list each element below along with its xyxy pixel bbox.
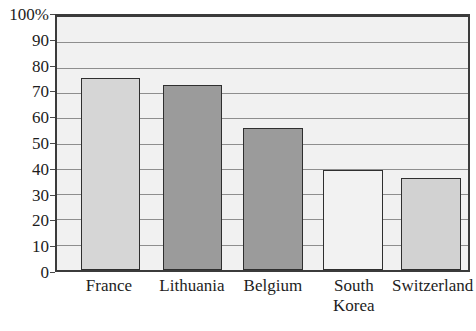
plot-area <box>55 14 470 272</box>
y-axis-tick-label: 10 <box>32 238 49 255</box>
cut-off-title <box>0 0 476 13</box>
x-axis-tick-label: South Korea <box>333 276 375 316</box>
bar-chart: 100%9080706050403020100 FranceLithuaniaB… <box>0 0 476 331</box>
bar <box>323 170 383 270</box>
y-axis: 100%9080706050403020100 <box>0 14 55 272</box>
y-axis-tick-label: 20 <box>32 212 49 229</box>
y-axis-tick-label: 70 <box>32 83 49 100</box>
x-axis-tick-label: Belgium <box>244 276 303 296</box>
bar <box>163 85 223 270</box>
y-axis-tick-label: 0 <box>41 264 50 281</box>
y-axis-tick-label: 90 <box>32 31 49 48</box>
y-axis-tick-label: 100% <box>9 6 49 23</box>
y-axis-tick-label: 80 <box>32 57 49 74</box>
y-axis-tick-label: 60 <box>32 109 49 126</box>
x-axis-tick-label: Lithuania <box>159 276 224 296</box>
bar <box>243 128 303 270</box>
y-axis-tick <box>50 272 55 273</box>
x-axis-tick-label: France <box>86 276 132 296</box>
bars-layer <box>57 17 468 270</box>
x-axis-tick-label: Switzerland <box>392 276 473 296</box>
x-axis: FranceLithuaniaBelgiumSouth KoreaSwitzer… <box>55 276 470 331</box>
y-axis-tick-label: 40 <box>32 160 49 177</box>
y-axis-tick-label: 50 <box>32 135 49 152</box>
y-axis-tick-label: 30 <box>32 186 49 203</box>
bar <box>81 78 141 270</box>
bar <box>401 178 461 270</box>
